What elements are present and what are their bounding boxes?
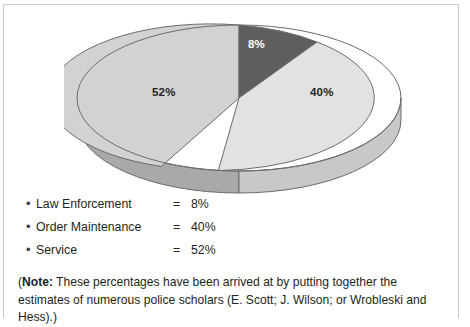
legend-value: 52%: [191, 243, 216, 257]
note-paragraph: (Note: These percentages have been arriv…: [18, 274, 452, 327]
figure-frame: 8% 40% 52% • Law Enforcement = 8% • Orde…: [3, 4, 459, 318]
legend-item-service: • Service = 52%: [4, 243, 460, 266]
legend-list: • Law Enforcement = 8% • Order Maintenan…: [4, 197, 460, 266]
legend-label: Service: [36, 243, 173, 257]
legend-label: Order Maintenance: [36, 220, 173, 234]
bullet-icon: •: [26, 197, 36, 210]
pie-chart: 8% 40% 52%: [4, 5, 460, 191]
note-text: These percentages have been arrived at b…: [18, 275, 426, 324]
legend-equals: =: [173, 197, 191, 211]
pie-label-order-maintenance: 40%: [310, 86, 334, 98]
bullet-icon: •: [26, 220, 36, 233]
pie-chart-svg: [64, 15, 409, 200]
legend-value: 8%: [191, 197, 209, 211]
legend-item-order-maintenance: • Order Maintenance = 40%: [4, 220, 460, 243]
legend-equals: =: [173, 243, 191, 257]
pie-label-law-enforcement: 8%: [248, 38, 265, 50]
note-bold-label: Note:: [22, 275, 53, 289]
pie-label-service: 52%: [152, 86, 176, 98]
bullet-icon: •: [26, 243, 36, 256]
legend-item-law-enforcement: • Law Enforcement = 8%: [4, 197, 460, 220]
legend-value: 40%: [191, 220, 216, 234]
legend-label: Law Enforcement: [36, 197, 173, 211]
legend-equals: =: [173, 220, 191, 234]
